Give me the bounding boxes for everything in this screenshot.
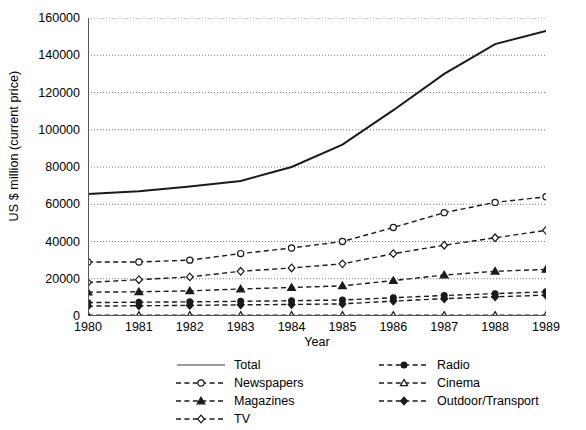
legend-marker-sample (175, 358, 227, 372)
x-axis-tick-label: 1989 (516, 320, 576, 334)
data-point-marker (441, 210, 447, 216)
series-tv (88, 227, 546, 287)
chart-canvas (88, 18, 546, 316)
y-axis-tick-label: 120000 (2, 87, 80, 100)
legend-item-magazines[interactable]: Magazines (175, 392, 325, 410)
legend-marker-sample (378, 358, 430, 372)
legend-item-label: Magazines (234, 394, 294, 408)
data-point-marker (390, 224, 396, 230)
data-point-marker (135, 276, 142, 284)
data-point-marker (238, 251, 244, 257)
data-point-marker (492, 234, 499, 242)
series-line (88, 230, 546, 282)
legend-column-left: TotalNewspapersMagazinesTV (175, 356, 325, 428)
legend-item-label: Total (234, 358, 260, 372)
data-point-marker (401, 362, 407, 368)
data-point-marker (401, 397, 408, 405)
legend-column-right: RadioCinemaOutdoor/Transport (378, 356, 538, 410)
data-point-marker (288, 264, 295, 272)
legend-marker-sample (378, 376, 430, 390)
data-point-marker (136, 259, 142, 265)
plot-area (88, 18, 546, 316)
data-point-marker (198, 380, 204, 386)
legend-item-total[interactable]: Total (175, 356, 325, 374)
data-point-marker (288, 245, 294, 251)
series-magazines (88, 266, 546, 295)
data-point-marker (390, 250, 397, 258)
data-point-marker (440, 271, 448, 278)
data-point-marker (543, 227, 546, 235)
y-axis-tick-label: 20000 (2, 273, 80, 286)
legend-item-cinema[interactable]: Cinema (378, 374, 538, 392)
series-line (88, 269, 546, 292)
legend-item-tv[interactable]: TV (175, 410, 325, 428)
legend-item-label: Cinema (437, 376, 480, 390)
y-axis-tick-label: 60000 (2, 198, 80, 211)
y-axis-tick-label: 140000 (2, 49, 80, 62)
data-point-marker (198, 415, 205, 423)
data-point-marker (186, 273, 193, 281)
y-axis-title: US $ million (current price) (7, 0, 21, 296)
legend-item-outdoor-transport[interactable]: Outdoor/Transport (378, 392, 538, 410)
legend-item-label: Outdoor/Transport (437, 394, 539, 408)
legend-item-label: TV (234, 412, 250, 426)
legend-item-label: Newspapers (234, 376, 303, 390)
legend-marker-sample (175, 394, 227, 408)
legend-item-radio[interactable]: Radio (378, 356, 538, 374)
data-point-marker (441, 241, 448, 249)
data-point-marker (339, 260, 346, 268)
data-point-marker (492, 199, 498, 205)
legend-item-newspapers[interactable]: Newspapers (175, 374, 325, 392)
legend-item-label: Radio (437, 358, 470, 372)
x-axis-title: Year (88, 335, 546, 349)
legend-marker-sample (378, 394, 430, 408)
data-point-marker (339, 238, 345, 244)
legend-marker-sample (175, 412, 227, 426)
data-point-marker (339, 282, 347, 289)
data-point-marker (237, 268, 244, 276)
data-point-marker (543, 194, 546, 200)
legend-marker-sample (175, 376, 227, 390)
y-axis-tick-label: 100000 (2, 124, 80, 137)
y-axis-tick-label: 80000 (2, 161, 80, 174)
y-axis-tick-label: 160000 (2, 12, 80, 25)
data-point-marker (187, 257, 193, 263)
chart-figure: US $ million (current price) Year 020000… (0, 0, 586, 430)
series-line (88, 197, 546, 262)
data-point-marker (389, 277, 397, 284)
y-axis-tick-label: 40000 (2, 236, 80, 249)
